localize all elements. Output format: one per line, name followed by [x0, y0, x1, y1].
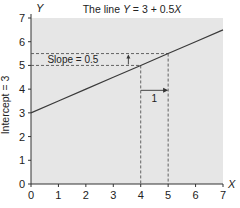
x-axis-title: X — [227, 178, 236, 190]
x-tick-label: 5 — [165, 189, 171, 201]
y-axis-title: Y — [36, 2, 44, 14]
x-tick-label: 6 — [193, 189, 199, 201]
chart-title: The line Y = 3 + 0.5X — [83, 3, 183, 15]
x-tick-label: 1 — [55, 189, 61, 201]
intercept-label: Intercept = 3 — [0, 76, 11, 135]
y-tick-label: 6 — [19, 36, 25, 48]
slope-label: Slope = 0.5 — [47, 54, 98, 65]
y-tick-label: 5 — [19, 59, 25, 71]
y-tick-label: 2 — [19, 131, 25, 143]
y-tick-label: 4 — [19, 83, 25, 95]
y-tick-label: 3 — [19, 107, 25, 119]
x-tick-label: 3 — [110, 189, 116, 201]
y-tick-label: 0 — [19, 178, 25, 190]
y-tick-label: 1 — [19, 154, 25, 166]
chart: The line Y = 3 + 0.5X 0123456701234567 Y… — [0, 0, 240, 208]
run-label: 1 — [151, 93, 157, 104]
x-tick-label: 7 — [220, 189, 226, 201]
chart-svg: The line Y = 3 + 0.5X 0123456701234567 Y… — [0, 0, 240, 208]
x-tick-label: 0 — [28, 189, 34, 201]
y-tick-label: 7 — [19, 12, 25, 24]
x-tick-label: 2 — [83, 189, 89, 201]
x-tick-label: 4 — [138, 189, 144, 201]
